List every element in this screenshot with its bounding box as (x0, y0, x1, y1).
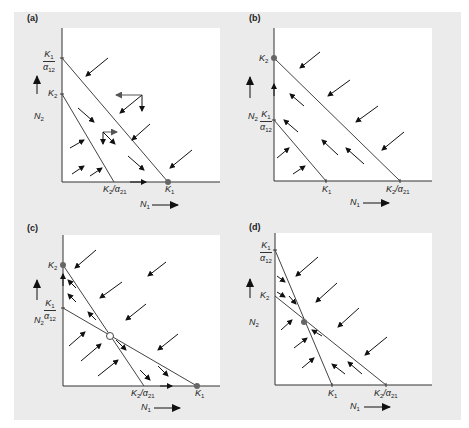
stable-equilibrium-dot (301, 319, 307, 325)
plot-area (62, 28, 220, 182)
tick-label-k2: K2 (260, 291, 269, 301)
axis-label-n2: N2 (249, 318, 259, 328)
axis-label-n2: N2 (248, 112, 258, 122)
tick-label-k1: K1 (195, 389, 204, 399)
plot-area (274, 28, 432, 181)
tick-label-k2-over-a21: K2/α21 (131, 389, 155, 399)
panel-label-d: (d) (249, 222, 261, 232)
tick-label-k1-over-a12: K1α12 (260, 241, 272, 264)
panel-b (250, 28, 432, 203)
unstable-equilibrium-dot (107, 333, 114, 340)
panel-d (250, 233, 432, 407)
tick-label-k2: K2 (48, 261, 57, 271)
axis-label-n2: N2 (34, 112, 44, 122)
tick-label-k1: K1 (165, 185, 174, 195)
phase-plane-diagrams (14, 12, 461, 420)
axis-label-n2: N2 (34, 316, 44, 326)
panel-c (37, 235, 220, 408)
tick-label-k2-over-a21: K2/α21 (374, 389, 398, 399)
panel-label-a: (a) (27, 13, 38, 23)
tick-label-k2-over-a21: K2/α21 (386, 185, 410, 195)
axis-label-n1: N1 (141, 403, 151, 413)
panel-a (37, 28, 220, 205)
competition-isocline-figure: (a) (b) (c) (d) K1α12 K2 N2 K2/α21 K1 N1… (14, 12, 461, 420)
panel-label-c: (c) (27, 223, 38, 233)
tick-label-k1: K1 (328, 389, 337, 399)
tick-label-k1: K1 (322, 185, 331, 195)
axis-label-n1: N1 (350, 198, 360, 208)
tick-label-k2: K2 (259, 54, 268, 64)
tick-label-k2: K2 (48, 89, 57, 99)
tick-label-k2-over-a21: K2/α21 (103, 185, 127, 195)
tick-label-k1-over-a12: K1α12 (260, 110, 272, 133)
tick-label-k1-over-a12: K1α12 (44, 299, 56, 322)
plot-area (275, 233, 432, 385)
stable-equilibrium-dot (271, 55, 277, 61)
panel-label-b: (b) (249, 13, 261, 23)
stable-equilibrium-dot (60, 262, 66, 268)
axis-label-n1: N1 (140, 200, 150, 210)
axis-label-n1: N1 (350, 402, 360, 412)
tick-label-k1-over-a12: K1α12 (43, 50, 55, 73)
